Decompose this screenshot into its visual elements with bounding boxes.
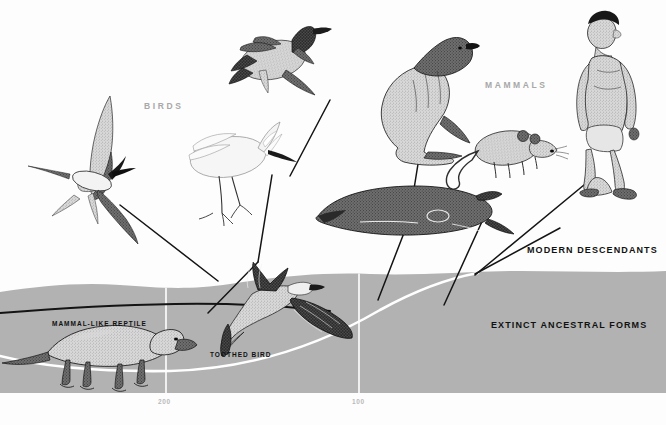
organism-sperm-whale <box>316 186 514 235</box>
organism-duck-landing <box>229 27 332 95</box>
organism-egret-wading <box>188 122 297 226</box>
organism-sea-lion <box>381 38 480 166</box>
organism-mammal-like-reptile <box>2 325 197 391</box>
organisms-layer <box>0 0 666 425</box>
artboard: BIRDS MAMMALS MODERN DESCENDANTS EXTINCT… <box>0 0 666 425</box>
organism-walking-man <box>577 11 639 199</box>
evolution-figure: BIRDS MAMMALS MODERN DESCENDANTS EXTINCT… <box>0 0 666 425</box>
organism-archaeopteryx-toothed-bird <box>220 262 352 356</box>
organism-tern-in-flight <box>28 96 138 244</box>
